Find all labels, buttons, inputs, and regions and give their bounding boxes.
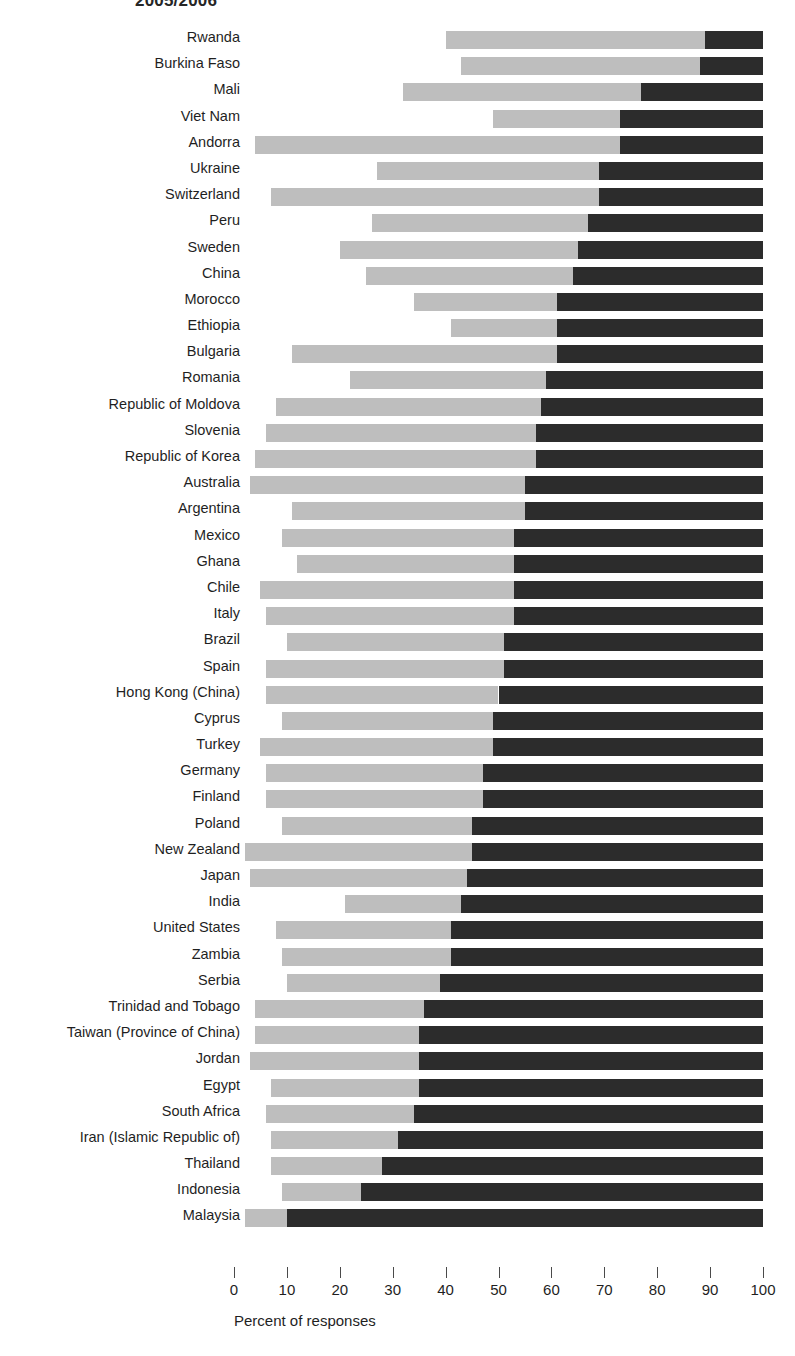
bar-row-label: Italy [0, 605, 240, 622]
bar-segment-light [250, 869, 467, 887]
bar-track [234, 1052, 763, 1070]
bar-row: Brazil [0, 630, 795, 656]
bar-row: Finland [0, 787, 795, 813]
bar-row: Zambia [0, 945, 795, 971]
x-axis-tick [287, 1267, 288, 1278]
bar-segment-dark [514, 529, 763, 547]
bar-segment-dark [588, 214, 763, 232]
bar-row: India [0, 892, 795, 918]
bar-track [234, 1131, 763, 1149]
bar-row: Italy [0, 604, 795, 630]
x-axis-tick-label: 40 [437, 1281, 454, 1299]
bar-row: Mexico [0, 526, 795, 552]
bar-row: Egypt [0, 1076, 795, 1102]
bar-row: Jordan [0, 1049, 795, 1075]
bar-row-label: Poland [0, 815, 240, 832]
x-axis-tick-label: 50 [490, 1281, 507, 1299]
chart-root: 2005/2006 RwandaBurkina FasoMaliViet Nam… [0, 0, 795, 1356]
bar-row-label: Hong Kong (China) [0, 684, 240, 701]
bar-track [234, 869, 763, 887]
bar-segment-dark [419, 1052, 763, 1070]
bar-track [234, 607, 763, 625]
bar-row-label: South Africa [0, 1103, 240, 1120]
bar-row: South Africa [0, 1102, 795, 1128]
bar-track [234, 790, 763, 808]
x-axis-tick-label: 30 [384, 1281, 401, 1299]
bar-row-label: Bulgaria [0, 343, 240, 360]
bar-track [234, 738, 763, 756]
bar-row-label: Rwanda [0, 29, 240, 46]
bar-track [234, 188, 763, 206]
bar-segment-dark [451, 948, 763, 966]
bar-segment-dark [493, 738, 763, 756]
bar-row: Iran (Islamic Republic of) [0, 1128, 795, 1154]
bar-track [234, 267, 763, 285]
bar-track [234, 633, 763, 651]
bar-row-label: Turkey [0, 736, 240, 753]
bar-segment-light [340, 241, 578, 259]
bar-segment-light [266, 764, 483, 782]
bar-row-label: Switzerland [0, 186, 240, 203]
bar-row-label: Burkina Faso [0, 55, 240, 72]
x-axis-title: Percent of responses [234, 1312, 376, 1329]
bar-row: Chile [0, 578, 795, 604]
bar-segment-light [377, 162, 599, 180]
bar-segment-dark [541, 398, 763, 416]
bar-row: Germany [0, 761, 795, 787]
bar-segment-dark [599, 162, 763, 180]
bar-segment-light [292, 345, 557, 363]
bar-segment-light [245, 1209, 287, 1227]
bar-segment-dark [557, 319, 763, 337]
bar-track [234, 136, 763, 154]
bar-row: Malaysia [0, 1206, 795, 1232]
bar-track [234, 555, 763, 573]
bar-row: Hong Kong (China) [0, 683, 795, 709]
bar-track [234, 424, 763, 442]
bar-segment-light [266, 686, 499, 704]
bar-row-label: Thailand [0, 1155, 240, 1172]
bar-track [234, 1209, 763, 1227]
bar-row: Morocco [0, 290, 795, 316]
x-axis-tick-label: 80 [649, 1281, 666, 1299]
bar-segment-dark [398, 1131, 763, 1149]
x-axis-tick [446, 1267, 447, 1278]
bar-row: China [0, 264, 795, 290]
bar-track [234, 371, 763, 389]
bar-row-label: Romania [0, 369, 240, 386]
bar-segment-light [250, 1052, 419, 1070]
bar-segment-light [250, 476, 525, 494]
bar-track [234, 1000, 763, 1018]
bar-segment-light [287, 633, 504, 651]
bar-row-label: Ethiopia [0, 317, 240, 334]
x-axis-tick-label: 70 [596, 1281, 613, 1299]
bar-row-label: Spain [0, 658, 240, 675]
bar-segment-dark [573, 267, 763, 285]
bar-track [234, 1026, 763, 1044]
bar-row: Mali [0, 80, 795, 106]
x-axis-tick [763, 1267, 764, 1278]
bar-row: Republic of Korea [0, 447, 795, 473]
bar-segment-dark [414, 1105, 763, 1123]
bar-segment-dark [620, 110, 763, 128]
bar-segment-dark [424, 1000, 763, 1018]
bar-row: Andorra [0, 133, 795, 159]
bar-segment-light [345, 895, 461, 913]
bar-row: Taiwan (Province of China) [0, 1023, 795, 1049]
bar-segment-light [255, 450, 535, 468]
bar-segment-light [245, 843, 472, 861]
bar-row-label: Slovenia [0, 422, 240, 439]
bar-segment-dark [705, 31, 763, 49]
bar-track [234, 476, 763, 494]
bar-segment-light [260, 738, 493, 756]
bar-segment-dark [557, 345, 763, 363]
bar-row: Ghana [0, 552, 795, 578]
bar-segment-light [282, 1183, 361, 1201]
bar-row-label: Republic of Korea [0, 448, 240, 465]
bar-row: Turkey [0, 735, 795, 761]
bar-row: Romania [0, 368, 795, 394]
bar-segment-dark [419, 1026, 763, 1044]
x-axis-tick [340, 1267, 341, 1278]
bar-track [234, 686, 763, 704]
bar-row-label: Brazil [0, 631, 240, 648]
bar-row: Thailand [0, 1154, 795, 1180]
